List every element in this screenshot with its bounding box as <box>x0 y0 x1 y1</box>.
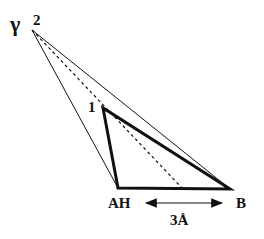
triangle-1-ah-b <box>103 108 230 189</box>
gamma-label: γ <box>10 13 20 35</box>
distance-label: 3Å <box>170 213 188 228</box>
line-2-to-b <box>32 30 230 189</box>
point-1-label: 1 <box>88 100 96 115</box>
ah-label: AH <box>108 196 131 211</box>
geometry-svg <box>0 0 264 239</box>
point-2-label: 2 <box>33 13 41 28</box>
diagram-canvas: γ 2 1 AH B 3Å <box>0 0 264 239</box>
b-label: B <box>236 196 246 211</box>
